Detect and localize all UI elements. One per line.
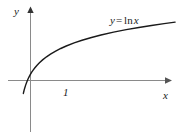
x-tick-label-1: 1 xyxy=(63,87,69,98)
equation-variable: x xyxy=(133,14,139,26)
plot-canvas xyxy=(0,0,183,140)
log-function-graph-figure: y x 1 y=lnx xyxy=(0,0,183,140)
y-axis-arrowhead xyxy=(27,7,33,14)
x-axis-label: x xyxy=(163,90,168,101)
ln-curve xyxy=(23,22,175,93)
equation-ln-function: ln xyxy=(123,14,133,26)
curve-equation-label: y=lnx xyxy=(110,15,139,26)
y-axis-label: y xyxy=(14,6,19,17)
x-axis-arrowhead xyxy=(165,77,172,83)
equation-equals-sign: = xyxy=(115,14,123,26)
